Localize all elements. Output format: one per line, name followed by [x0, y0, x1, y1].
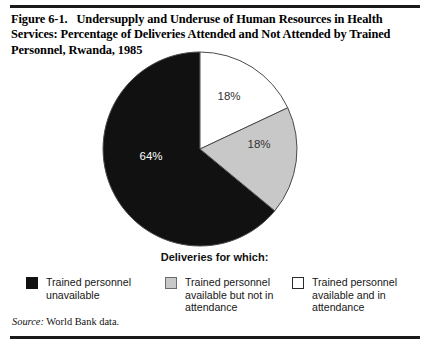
legend-item-available-in-attendance: Trained personnel available and in atten… [292, 276, 416, 314]
bottom-rule [10, 336, 420, 339]
legend-item-unavailable: Trained personnel unavailable [26, 276, 165, 301]
legend-label-available-not-in-attendance: Trained personnel available but not in a… [185, 276, 292, 314]
source-label: Source: [12, 316, 44, 327]
legend-heading: Deliveries for which: [0, 251, 429, 263]
legend: Trained personnel unavailable Trained pe… [26, 276, 416, 314]
legend-label-unavailable: Trained personnel unavailable [46, 276, 165, 301]
pie-label-available-not-in-attendance: 18% [247, 138, 270, 150]
legend-swatch-black-icon [26, 277, 38, 289]
legend-swatch-white-icon [292, 277, 304, 289]
legend-label-available-in-attendance: Trained personnel available and in atten… [312, 276, 416, 314]
legend-item-available-not-in-attendance: Trained personnel available but not in a… [165, 276, 292, 314]
pie-chart: 18% 18% 64% [101, 49, 299, 249]
pie-label-unavailable: 64% [139, 150, 162, 162]
source-text: World Bank data. [46, 316, 119, 327]
figure-panel: Figure 6-1.Undersupply and Underuse of H… [0, 0, 429, 354]
pie-label-available-in-attendance: 18% [217, 90, 240, 102]
top-rule [10, 5, 420, 8]
source-note: Source: World Bank data. [12, 316, 119, 327]
pie-chart-svg: 18% 18% 64% [101, 49, 299, 249]
legend-swatch-gray-icon [165, 277, 177, 289]
figure-number: Figure 6-1. [11, 12, 68, 26]
